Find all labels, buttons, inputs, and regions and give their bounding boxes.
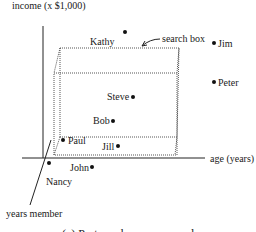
years-member-axis-label: years member (6, 208, 63, 219)
point-label: Nancy (46, 176, 72, 187)
point-jim: Jim (212, 38, 233, 49)
point-nancy: Nancy (46, 161, 72, 187)
point-bob: Bob (93, 115, 115, 126)
point-label: Paul (68, 135, 86, 146)
point-marker (212, 41, 216, 45)
search-box-edge-bl (54, 137, 60, 155)
point-marker (111, 119, 115, 123)
point-label: Kathy (90, 36, 114, 47)
point-jill: Jill (102, 141, 120, 152)
age-axis-label: age (years) (210, 153, 254, 165)
point-john: John (70, 162, 94, 173)
point-marker (47, 161, 51, 165)
point-label: Peter (218, 77, 239, 88)
search-box-callout: search box (142, 33, 205, 46)
search-box-label: search box (162, 33, 205, 44)
point-label: Steve (107, 91, 130, 102)
point-marker (212, 80, 216, 84)
years-member-axis (30, 140, 51, 205)
point-label: John (70, 162, 89, 173)
point-peter: Peter (212, 77, 239, 88)
point-label: Bob (93, 115, 110, 126)
point-steve: Steve (107, 91, 135, 102)
3d-scatter-diagram: income (x $1,000) age (years) years memb… (0, 0, 256, 232)
point-kathy: Kathy (90, 30, 127, 47)
search-box-edge-tl (54, 48, 60, 73)
point-marker (90, 165, 94, 169)
callout-arrow-line (142, 39, 160, 46)
point-label: Jill (102, 141, 114, 152)
income-axis-label: income (x $1,000) (12, 0, 86, 12)
point-marker (61, 138, 65, 142)
point-marker (123, 30, 127, 34)
point-label: Jim (218, 38, 233, 49)
figure-caption: (a) Partner shown as records (62, 227, 199, 232)
point-marker (131, 95, 135, 99)
point-marker (116, 144, 120, 148)
